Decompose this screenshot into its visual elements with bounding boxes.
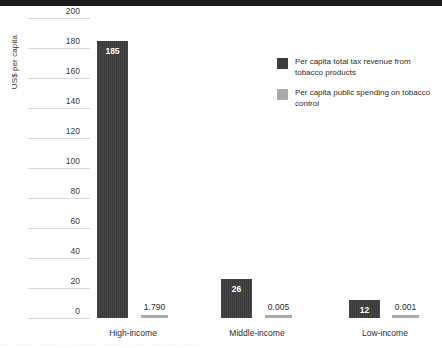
legend-item-label: Per capita public spending on tobacco co… [295, 88, 437, 109]
bar-value-label: 26 [221, 284, 252, 294]
gridline [28, 108, 90, 109]
legend-item-label: Per capita total tax revenue from tobacc… [295, 57, 437, 78]
y-axis-tick-label: 100 [28, 156, 80, 166]
y-axis-tick-label: 80 [28, 186, 80, 196]
gridline [28, 198, 90, 199]
gridline [28, 258, 90, 259]
bar-value-label: 185 [97, 46, 128, 56]
bar-public-spending[interactable] [265, 315, 292, 318]
y-axis-tick-label: 160 [28, 66, 80, 76]
bar-value-label: 1.790 [132, 302, 178, 312]
bar-value-label: 0.005 [256, 302, 302, 312]
bar-tax-revenue[interactable]: 185 [97, 41, 128, 319]
x-axis-category-label: High-income [78, 328, 188, 338]
y-axis-tick-label: 0 [28, 306, 80, 316]
y-axis-tick-label: 20 [28, 276, 80, 286]
cropped-footer-text: · ·· · ··· · ·· · ·· ···· · ·· · ·· ·· ·… [0, 341, 442, 348]
chart-legend: Per capita total tax revenue from tobacc… [277, 57, 437, 119]
legend-item[interactable]: Per capita total tax revenue from tobacc… [277, 57, 437, 78]
x-axis-category-label: Low-income [330, 328, 440, 338]
y-axis-tick-label: 180 [28, 36, 80, 46]
y-axis-tick-label: 60 [28, 216, 80, 226]
legend-swatch-icon [277, 89, 288, 100]
x-axis-category-label: Middle-income [202, 328, 312, 338]
bar-tax-revenue[interactable]: 12 [349, 300, 380, 318]
gridline [28, 138, 90, 139]
gridline [28, 78, 90, 79]
gridline [28, 18, 90, 19]
gridline [28, 288, 90, 289]
y-axis-tick-label: 200 [28, 6, 80, 16]
y-axis-tick-label: 140 [28, 96, 80, 106]
y-axis-tick-label: 120 [28, 126, 80, 136]
bar-value-label: 0.001 [383, 302, 429, 312]
chart-figure: US$ per capita 2001801601401201008060402… [0, 0, 442, 348]
bar-public-spending[interactable] [141, 315, 168, 318]
legend-item[interactable]: Per capita public spending on tobacco co… [277, 88, 437, 109]
gridline [28, 168, 90, 169]
bar-tax-revenue[interactable]: 26 [221, 279, 252, 318]
bar-public-spending[interactable] [392, 315, 419, 318]
plot-area: 2001801601401201008060402001851.790High-… [0, 0, 442, 348]
gridline [28, 318, 90, 319]
legend-swatch-icon [277, 58, 288, 69]
gridline [28, 228, 90, 229]
bar-value-label: 12 [349, 305, 380, 315]
y-axis-tick-label: 40 [28, 246, 80, 256]
gridline [28, 48, 90, 49]
